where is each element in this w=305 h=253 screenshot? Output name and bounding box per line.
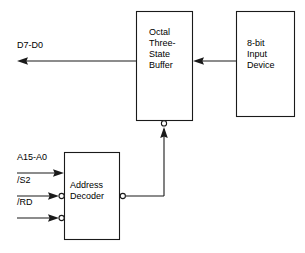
address-decoder-label-line-1: Address <box>70 180 103 191</box>
address-decoder-label-line-2: Decoder <box>70 191 104 202</box>
address-bus-label: A15-A0 <box>17 152 47 163</box>
decoder-output-bubble-icon <box>120 193 125 198</box>
read-strobe-bubble-icon <box>59 215 64 220</box>
input-device-label-line-2: Input <box>247 49 267 60</box>
data-bus-label: D7-D0 <box>17 40 43 51</box>
chip-select-arrowhead <box>48 192 59 200</box>
buffer-enable-bubble-icon <box>161 121 166 126</box>
octal-buffer-label-line-2: Three- <box>149 38 176 49</box>
input-device-label-line-1: 8-bit <box>247 38 265 49</box>
diagram-canvas: Octal Three- State Buffer 8-bit Input De… <box>0 0 305 253</box>
read-strobe-arrowhead <box>48 214 59 222</box>
read-strobe-label: /RD <box>17 197 33 208</box>
data-bus-arrowhead <box>17 57 28 65</box>
octal-buffer-label-line-1: Octal <box>149 27 170 38</box>
buffer-enable-arrowhead <box>160 127 168 138</box>
octal-buffer-label-line-4: Buffer <box>149 60 173 71</box>
octal-buffer-label-line-3: State <box>149 49 170 60</box>
chip-select-label: /S2 <box>17 175 31 186</box>
input-device-arrowhead <box>193 57 204 65</box>
input-device-label-line-3: Device <box>247 60 275 71</box>
address-bus-arrowhead <box>53 169 64 177</box>
chip-select-bubble-icon <box>59 193 64 198</box>
